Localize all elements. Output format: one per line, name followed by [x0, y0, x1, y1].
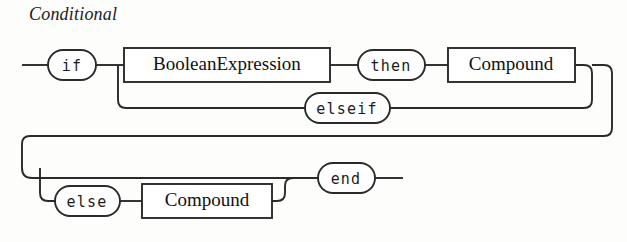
node-elseif-label: elseif [316, 100, 377, 118]
node-end-label: end [331, 170, 362, 188]
node-if-label: if [62, 57, 82, 75]
node-then-label: then [371, 57, 412, 75]
rail-else-compound-to-end [272, 178, 318, 201]
node-compound-else-label: Compound [165, 189, 250, 210]
railroad-svg: if BooleanExpression then Compound elsei… [0, 0, 627, 242]
node-compound-then-label: Compound [469, 53, 554, 74]
node-boolean-expression-label: BooleanExpression [153, 53, 301, 74]
rail-row2-to-else-branch [40, 168, 55, 201]
rail-row2-spine-to-end [22, 168, 318, 178]
node-else-label: else [67, 193, 108, 211]
railroad-diagram: Conditional [0, 0, 627, 242]
